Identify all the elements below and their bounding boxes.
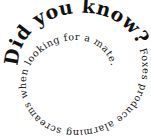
spiral-svg: Did you know? Foxes produce alarming scr…	[0, 0, 151, 136]
fact-text: Foxes produce alarming screams when look…	[17, 31, 151, 136]
spiral-text-graphic: Did you know? Foxes produce alarming scr…	[0, 0, 151, 136]
spiral-text: Did you know? Foxes produce alarming scr…	[0, 0, 151, 136]
